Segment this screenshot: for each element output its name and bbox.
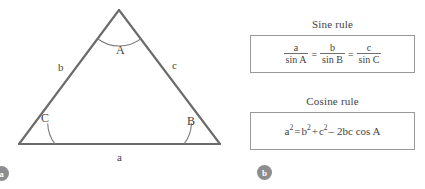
side-label-c: c [172,60,177,71]
side-label-a: a [117,152,122,163]
equals-sign-1: = [311,49,317,60]
cosine-rule-box: a2=b2+c2–2bc cos A [250,112,415,150]
panel-trig-rules: Sine rule a sin A = b sin B = [240,0,425,189]
angle-label-C: C [41,112,49,124]
sine-rule-box: a sin A = b sin B = c sin C [250,35,415,73]
panel-triangle-diagram: A C B b c a a [0,0,240,189]
cosine-plus-sign: + [312,125,318,137]
fraction-denominator: sin C [357,54,382,66]
fraction-numerator: c [364,43,374,54]
cosine-equals-sign: = [294,125,300,137]
cosine-term2-exponent: 2 [324,123,328,132]
fraction-numerator: b [327,43,338,54]
angle-arc-C [48,123,55,144]
fraction-numerator: a [291,43,301,54]
fraction-c-over-sinC: c sin C [357,43,382,66]
sine-rule-block: Sine rule a sin A = b sin B = [250,18,415,73]
cosine-term3: 2bc cos A [337,125,380,137]
fraction-denominator: sin B [320,54,345,66]
cosine-rule-title: Cosine rule [250,95,415,107]
fraction-denominator: sin A [284,54,309,66]
cosine-term1-exponent: 2 [307,123,311,132]
angle-label-A: A [116,44,125,56]
cosine-rule-equation: a2=b2+c2–2bc cos A [285,125,381,137]
sine-rule-title: Sine rule [250,18,415,30]
triangle-side-c-line [119,10,220,144]
cosine-minus-sign: – [329,125,335,137]
equals-sign-2: = [348,49,354,60]
angle-label-B: B [187,115,195,127]
sine-rule-equation: a sin A = b sin B = c sin C [283,43,383,66]
cosine-rule-block: Cosine rule a2=b2+c2–2bc cos A [250,95,415,150]
panel-badge-b: b [257,165,272,180]
panel-badge-b-label: b [262,168,267,178]
fraction-b-over-sinB: b sin B [320,43,345,66]
triangle-side-b-line [19,10,119,144]
fraction-a-over-sinA: a sin A [284,43,309,66]
panel-badge-a-label: a [0,169,4,179]
cosine-lhs-exponent: 2 [289,123,293,132]
side-label-b: b [58,62,64,73]
figure-container: A C B b c a a Sine rule a sin A = [0,0,425,189]
